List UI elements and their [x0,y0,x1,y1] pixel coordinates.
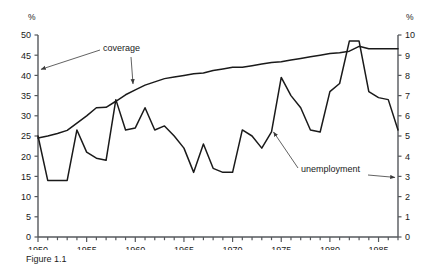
x-axis-tick-label: 1960 [125,245,145,250]
left-axis-tick-label: 50 [21,30,31,40]
right-axis-tick-label: 10 [405,30,415,40]
left-axis-tick-label: 0 [26,232,31,242]
left-axis-tick-label: 10 [21,192,31,202]
x-axis-tick-label: 1950 [28,245,48,250]
figure-caption: Figure 1.1 [26,254,67,270]
right-axis-tick-label: 2 [405,192,410,202]
annotation-arrow-unemployment-to-series [274,132,298,168]
left-axis-tick-label: 45 [21,51,31,61]
left-axis-tick-label: 25 [21,131,31,141]
right-axis-tick-label: 9 [405,51,410,61]
right-axis-tick-label: 3 [405,172,410,182]
right-axis-tick-label: 6 [405,111,410,121]
annotation-arrow-coverage-to-series [131,57,133,84]
right-axis-tick-label: 0 [405,232,410,242]
x-axis-tick-label: 1955 [77,245,97,250]
left-axis-tick-label: 5 [26,212,31,222]
right-axis-tick-label: 1 [405,212,410,222]
figure-container: %%05101520253035404550012345678910195019… [0,0,433,270]
x-axis-tick-label: 1980 [320,245,340,250]
right-axis-tick-label: 8 [405,71,410,81]
annotation-label-coverage: coverage [103,43,140,53]
right-axis-unit: % [406,12,414,22]
annotation-arrow-coverage-to-axis [41,50,100,69]
left-axis-tick-label: 35 [21,91,31,101]
left-axis-tick-label: 30 [21,111,31,121]
x-axis-tick-label: 1970 [223,245,243,250]
x-axis-tick-label: 1975 [271,245,291,250]
right-axis-tick-label: 7 [405,91,410,101]
annotation-arrow-unemployment-to-axis [368,175,395,177]
left-axis-tick-label: 15 [21,172,31,182]
x-axis-tick-label: 1965 [174,245,194,250]
x-axis-tick-label: 1985 [369,245,389,250]
left-axis-tick-label: 20 [21,152,31,162]
dual-axis-line-chart: %%05101520253035404550012345678910195019… [0,0,433,250]
right-axis-tick-label: 5 [405,131,410,141]
left-axis-tick-label: 40 [21,71,31,81]
annotation-label-unemployment: unemployment [301,164,361,174]
series-line-coverage [38,46,398,138]
right-axis-tick-label: 4 [405,152,410,162]
left-axis-unit: % [28,12,36,22]
